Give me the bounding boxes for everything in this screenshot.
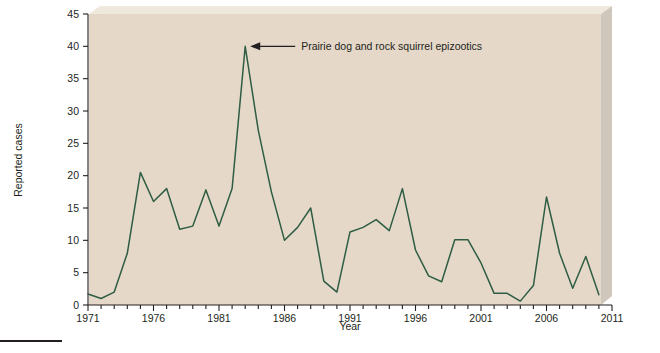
annotation-label: Prairie dog and rock squirrel epizootics bbox=[301, 40, 482, 52]
x-tick-label: 1981 bbox=[207, 312, 231, 324]
x-tick-label: 2001 bbox=[469, 312, 493, 324]
plot-bevel-right bbox=[601, 6, 612, 305]
y-axis-ticks: 051015202530354045 bbox=[67, 8, 88, 311]
y-tick-label: 30 bbox=[67, 105, 79, 117]
y-tick-label: 40 bbox=[67, 40, 79, 52]
y-tick-label: 5 bbox=[73, 266, 79, 278]
y-tick-label: 25 bbox=[67, 137, 79, 149]
x-axis-title: Year bbox=[339, 320, 361, 332]
x-tick-label: 1976 bbox=[142, 312, 166, 324]
y-axis-title: Reported cases bbox=[12, 123, 24, 197]
y-tick-label: 10 bbox=[67, 234, 79, 246]
figure-root: 051015202530354045 197119761981198619911… bbox=[0, 0, 660, 353]
y-tick-label: 15 bbox=[67, 202, 79, 214]
x-tick-label: 2011 bbox=[601, 312, 624, 324]
plague-cases-line-chart: 051015202530354045 197119761981198619911… bbox=[0, 0, 660, 353]
y-tick-label: 45 bbox=[67, 8, 79, 20]
y-tick-label: 20 bbox=[67, 169, 79, 181]
x-tick-label: 1996 bbox=[404, 312, 428, 324]
plot-bevel-top bbox=[89, 6, 612, 14]
plot-background bbox=[89, 14, 601, 305]
y-tick-label: 0 bbox=[73, 299, 79, 311]
x-tick-label: 2006 bbox=[535, 312, 559, 324]
y-tick-label: 35 bbox=[67, 72, 79, 84]
x-tick-label: 1971 bbox=[76, 312, 100, 324]
x-tick-label: 1986 bbox=[273, 312, 297, 324]
